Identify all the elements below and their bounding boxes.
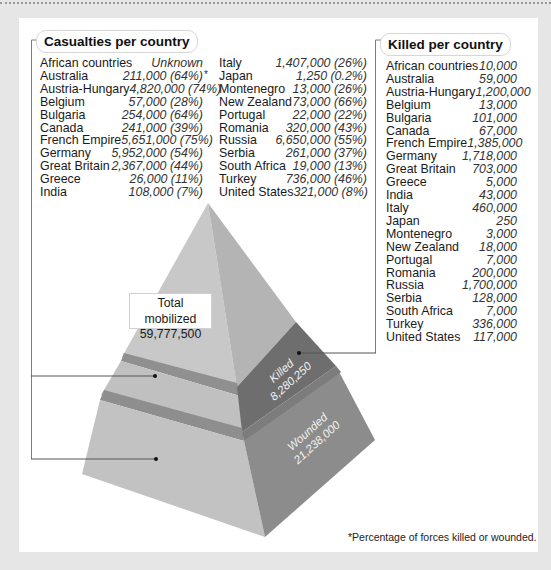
killed-value: 18,000 xyxy=(479,241,517,254)
country-name: Belgium xyxy=(386,99,431,112)
killed-value: 7,000 xyxy=(486,254,517,267)
footnote-mark: * xyxy=(204,69,208,80)
country-name: Portugal xyxy=(219,109,265,122)
table-row: Bulgaria101,000 xyxy=(386,112,517,125)
casualty-value: 108,000 (7%) xyxy=(129,186,203,199)
country-name: African countries xyxy=(386,60,478,73)
table-row: New Zealand73,000 (66%) xyxy=(219,96,367,109)
table-row: Austria-Hungary1,200,000 xyxy=(386,86,517,99)
country-name: Australia xyxy=(386,73,434,86)
table-row: United States117,000 xyxy=(386,331,517,344)
country-name: Belgium xyxy=(40,96,85,109)
table-row: Montenegro3,000 xyxy=(386,228,517,241)
killed-value: 101,000 xyxy=(472,112,517,125)
casualty-value: 13,000 (26%) xyxy=(293,83,367,96)
table-row: Montenegro13,000 (26%) xyxy=(219,83,367,96)
casualty-value: 22,000 (22%) xyxy=(293,109,367,122)
table-row: United States321,000 (8%) xyxy=(219,186,367,199)
casualties-title: Casualties per country xyxy=(36,30,198,53)
casualty-value: 4,820,000 (74%) xyxy=(130,83,222,96)
country-name: Austria-Hungary xyxy=(40,83,130,96)
country-name: Bulgaria xyxy=(40,109,85,122)
table-row: Portugal7,000 xyxy=(386,254,517,267)
killed-value: 460,000 xyxy=(472,202,517,215)
table-row: Belgium57,000 (28%) xyxy=(40,96,203,109)
table-row: Bulgaria254,000 (64%) xyxy=(40,109,203,122)
table-row: African countriesUnknown xyxy=(40,57,203,70)
country-name: Montenegro xyxy=(386,228,452,241)
killed-value: 59,000 xyxy=(479,73,517,86)
casualties-left-column: African countriesUnknown Australia211,00… xyxy=(40,57,203,199)
table-row: Japan250 xyxy=(386,215,517,228)
country-name: Bulgaria xyxy=(386,112,431,125)
casualty-value: 211,000 (64%) xyxy=(123,70,203,83)
total-mobilized-label: Total mobilized xyxy=(130,296,211,327)
killed-table: African countries10,000 Australia59,000 … xyxy=(386,60,517,344)
country-name: United States xyxy=(219,186,293,199)
casualty-value: 254,000 (64%) xyxy=(122,109,203,122)
table-row: New Zealand18,000 xyxy=(386,241,517,254)
casualties-right-column: Italy1,407,000 (26%) Japan1,250 (0.2%) M… xyxy=(219,57,367,199)
country-name: Australia xyxy=(40,70,88,83)
table-row: India108,000 (7%) xyxy=(40,186,203,199)
country-name: Montenegro xyxy=(219,83,285,96)
country-name: Italy xyxy=(386,202,409,215)
casualty-value: Unknown xyxy=(151,57,203,70)
killed-title: Killed per country xyxy=(380,33,511,56)
total-mobilized-callout: Total mobilized 59,777,500 xyxy=(129,293,212,329)
table-row: Italy1,407,000 (26%) xyxy=(219,57,367,70)
casualty-value: 57,000 (28%) xyxy=(129,96,203,109)
table-row: Italy460,000 xyxy=(386,202,517,215)
country-name: United States xyxy=(386,331,460,344)
table-row: Japan1,250 (0.2%) xyxy=(219,70,367,83)
country-name: India xyxy=(40,186,67,199)
middle-band-dot xyxy=(153,374,157,378)
country-name: Japan xyxy=(386,215,420,228)
country-name: Italy xyxy=(219,57,242,70)
casualty-value: 73,000 (66%) xyxy=(293,96,367,109)
table-row: Austria-Hungary4,820,000 (74%) xyxy=(40,83,203,96)
country-name: Austria-Hungary xyxy=(386,86,476,99)
casualty-value: 321,000 (8%) xyxy=(293,186,367,199)
bottom-band-dot xyxy=(154,457,158,461)
table-row: Portugal22,000 (22%) xyxy=(219,109,367,122)
country-name: New Zealand xyxy=(219,96,292,109)
killed-value: 250 xyxy=(496,215,517,228)
country-name: New Zealand xyxy=(386,241,459,254)
killed-value: 1,200,000 xyxy=(476,86,531,99)
table-row: Australia211,000 (64%) xyxy=(40,70,203,83)
total-mobilized-value: 59,777,500 xyxy=(130,327,211,343)
casualty-value: 1,250 (0.2%) xyxy=(296,70,367,83)
killed-value: 10,000 xyxy=(479,60,517,73)
killed-value: 117,000 xyxy=(473,331,517,344)
footnote: *Percentage of forces killed or wounded. xyxy=(348,531,537,543)
country-name: Portugal xyxy=(386,254,432,267)
country-name: African countries xyxy=(40,57,132,70)
country-name: Japan xyxy=(219,70,253,83)
table-row: Australia59,000 xyxy=(386,73,517,86)
killed-value: 3,000 xyxy=(486,228,517,241)
table-row: African countries10,000 xyxy=(386,60,517,73)
killed-value: 13,000 xyxy=(479,99,517,112)
table-row: Belgium13,000 xyxy=(386,99,517,112)
casualty-value: 1,407,000 (26%) xyxy=(275,57,367,70)
